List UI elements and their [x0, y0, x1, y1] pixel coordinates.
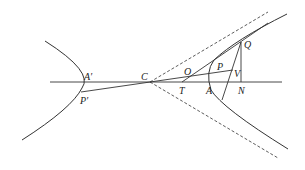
label-P: P — [216, 61, 223, 72]
label-P-prime: P′ — [79, 95, 89, 106]
label-C: C — [141, 71, 148, 82]
label-T: T — [179, 85, 186, 96]
label-A-prime: A′ — [83, 71, 93, 82]
hyperbola-right-branch — [209, 14, 288, 149]
hyperbola-diagram: A′ P′ C O T P A V N Q — [0, 0, 305, 170]
label-Q: Q — [244, 39, 252, 50]
label-N: N — [237, 85, 246, 96]
hyperbola-left-branch — [22, 41, 84, 140]
tangent-line-TQ — [182, 23, 268, 82]
label-A: A — [205, 85, 213, 96]
label-O: O — [184, 66, 191, 77]
